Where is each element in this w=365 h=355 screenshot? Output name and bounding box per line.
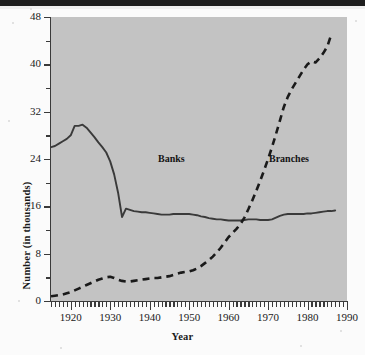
paper-speckle bbox=[355, 20, 357, 22]
y-tick-minor bbox=[46, 41, 51, 42]
x-tick-minor bbox=[252, 302, 253, 307]
x-tick-label: 1930 bbox=[88, 312, 132, 323]
x-tick-minor bbox=[233, 302, 234, 307]
x-tick-label: 1950 bbox=[167, 312, 211, 323]
banks-label: Banks bbox=[158, 153, 185, 164]
x-tick-minor bbox=[339, 302, 340, 307]
x-tick-major bbox=[268, 302, 269, 310]
y-tick-major bbox=[44, 206, 51, 207]
x-tick-minor bbox=[102, 302, 103, 307]
x-tick-minor bbox=[162, 302, 163, 307]
x-tick-minor bbox=[185, 302, 186, 307]
x-tick-label: 1980 bbox=[286, 312, 330, 323]
y-tick-major bbox=[44, 17, 51, 18]
x-tick-minor bbox=[173, 302, 174, 307]
x-axis-title: Year bbox=[0, 331, 365, 342]
x-tick-minor bbox=[51, 302, 52, 307]
x-tick-minor bbox=[201, 302, 202, 307]
y-tick-major bbox=[44, 159, 51, 160]
branches-line bbox=[51, 35, 331, 297]
y-tick-major bbox=[44, 64, 51, 65]
x-tick-minor bbox=[90, 302, 91, 307]
x-tick-minor bbox=[300, 302, 301, 307]
x-tick-minor bbox=[114, 302, 115, 307]
x-tick-minor bbox=[280, 302, 281, 307]
paper-speckle bbox=[300, 345, 302, 347]
y-tick-label: 48 bbox=[1, 11, 41, 22]
paper-speckle bbox=[60, 347, 62, 349]
x-tick-minor bbox=[106, 302, 107, 307]
x-tick-minor bbox=[288, 302, 289, 307]
x-tick-minor bbox=[134, 302, 135, 307]
paper-speckle bbox=[340, 330, 342, 332]
x-tick-minor bbox=[75, 302, 76, 307]
x-tick-minor bbox=[209, 302, 210, 307]
x-tick-minor bbox=[181, 302, 182, 307]
x-tick-major bbox=[189, 302, 190, 310]
x-tick-minor bbox=[122, 302, 123, 307]
x-tick-label: 1970 bbox=[246, 312, 290, 323]
x-tick-minor bbox=[130, 302, 131, 307]
x-tick-minor bbox=[292, 302, 293, 307]
y-tick-minor bbox=[46, 88, 51, 89]
x-tick-minor bbox=[98, 302, 99, 307]
x-tick-minor bbox=[55, 302, 56, 307]
x-tick-label: 1920 bbox=[49, 312, 93, 323]
x-tick-minor bbox=[146, 302, 147, 307]
x-tick-minor bbox=[205, 302, 206, 307]
x-tick-major bbox=[71, 302, 72, 310]
x-tick-minor bbox=[169, 302, 170, 307]
x-tick-minor bbox=[260, 302, 261, 307]
x-tick-minor bbox=[264, 302, 265, 307]
x-tick-major bbox=[229, 302, 230, 310]
x-tick-minor bbox=[87, 302, 88, 307]
y-tick-label: 40 bbox=[1, 58, 41, 69]
x-tick-minor bbox=[126, 302, 127, 307]
x-tick-minor bbox=[240, 302, 241, 307]
x-tick-minor bbox=[118, 302, 119, 307]
x-tick-minor bbox=[276, 302, 277, 307]
paper-speckle bbox=[18, 300, 20, 302]
x-tick-minor bbox=[244, 302, 245, 307]
x-tick-minor bbox=[63, 302, 64, 307]
y-tick-minor bbox=[46, 230, 51, 231]
x-tick-minor bbox=[256, 302, 257, 307]
banks-line bbox=[51, 125, 335, 221]
y-tick-minor bbox=[46, 277, 51, 278]
y-axis-title: Number (in thousands) bbox=[21, 156, 32, 316]
x-tick-minor bbox=[248, 302, 249, 307]
x-tick-label: 1960 bbox=[207, 312, 251, 323]
x-tick-minor bbox=[296, 302, 297, 307]
branches-label: Branches bbox=[269, 153, 309, 164]
y-tick-minor bbox=[46, 135, 51, 136]
x-tick-minor bbox=[67, 302, 68, 307]
x-tick-minor bbox=[165, 302, 166, 307]
y-tick-minor bbox=[46, 183, 51, 184]
x-tick-minor bbox=[94, 302, 95, 307]
x-tick-minor bbox=[142, 302, 143, 307]
x-tick-minor bbox=[217, 302, 218, 307]
x-tick-minor bbox=[272, 302, 273, 307]
x-tick-label: 1990 bbox=[325, 312, 365, 323]
x-tick-minor bbox=[327, 302, 328, 307]
x-tick-major bbox=[347, 302, 348, 310]
x-tick-minor bbox=[213, 302, 214, 307]
x-tick-minor bbox=[331, 302, 332, 307]
y-tick-major bbox=[44, 254, 51, 255]
x-tick-minor bbox=[311, 302, 312, 307]
x-tick-minor bbox=[138, 302, 139, 307]
x-tick-minor bbox=[319, 302, 320, 307]
y-tick-major bbox=[44, 112, 51, 113]
x-tick-major bbox=[150, 302, 151, 310]
x-tick-major bbox=[308, 302, 309, 310]
y-axis-title-holder: Number (in thousands) bbox=[10, 80, 30, 240]
x-tick-minor bbox=[197, 302, 198, 307]
plot-area: Banks Branches bbox=[51, 17, 347, 301]
x-tick-minor bbox=[304, 302, 305, 307]
x-tick-minor bbox=[343, 302, 344, 307]
paper-speckle bbox=[30, 8, 32, 10]
x-tick-minor bbox=[158, 302, 159, 307]
x-tick-major bbox=[110, 302, 111, 310]
x-tick-minor bbox=[221, 302, 222, 307]
x-tick-minor bbox=[83, 302, 84, 307]
